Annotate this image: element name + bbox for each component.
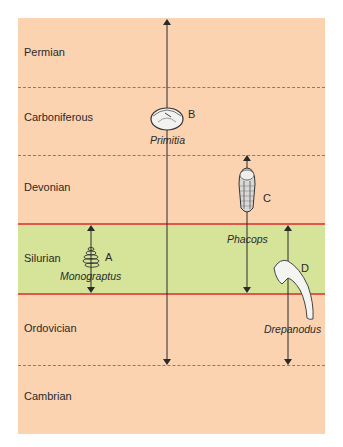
fossil-name-drepanodus: Drepanodus: [264, 323, 321, 335]
fossil-letter-c: C: [263, 192, 271, 204]
range-arrows: [18, 18, 325, 434]
ostracod-icon: [151, 108, 183, 130]
fossil-letter-b: B: [188, 108, 195, 120]
trilobite-icon: [239, 168, 255, 212]
fossil-name-monograptus: Monograptus: [60, 270, 121, 282]
fossil-letter-a: A: [105, 251, 112, 263]
fossil-name-primitia: Primitia: [150, 134, 185, 146]
fossil-name-phacops: Phacops: [227, 233, 268, 245]
fossil-letter-d: D: [301, 262, 309, 274]
stratigraphic-chart: Permian Carboniferous Devonian Silurian …: [18, 18, 325, 434]
